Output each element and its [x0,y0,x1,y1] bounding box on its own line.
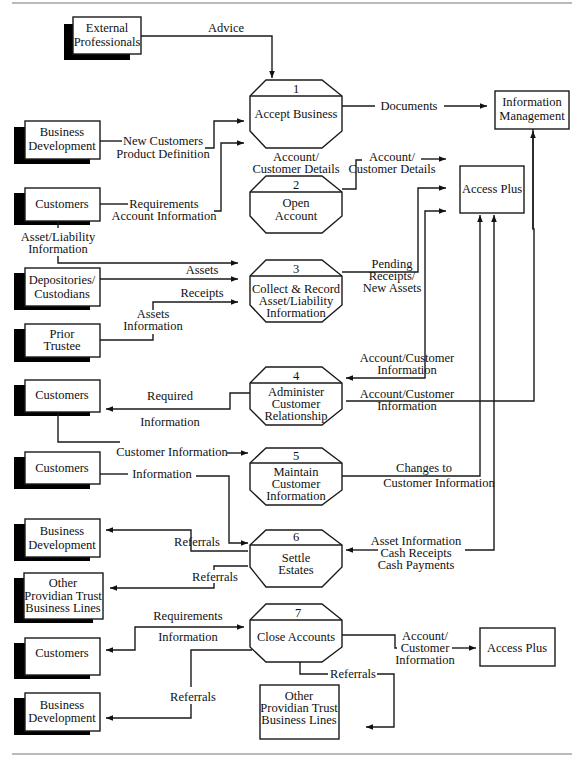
flow-documents: Documents [342,99,487,113]
flow-assets: Assets [100,263,238,279]
process-number: 6 [293,530,299,544]
process-6-settle-estates: 6 Settle Estates [250,530,342,587]
process-number: 5 [293,449,299,463]
flow-label: Information [395,653,455,667]
flow-label: Information [28,242,88,256]
entity-label: Customers [35,461,89,475]
flow-new-customers: New Customers Product Definition [100,121,244,161]
flow-label: Information [377,363,437,377]
entity-label: Business [40,524,85,538]
process-label: Information [266,306,326,320]
flow-label: Customer Details [252,162,339,176]
entity-other-providian-trust-1: Other Providian Trust Business Lines [14,573,103,623]
flow-label: Referrals [330,667,376,681]
entity-label: Business [40,125,85,139]
process-label: Close Accounts [257,630,335,644]
entity-customers-2: Customers [14,380,100,416]
entity-label: Development [28,538,96,552]
process-1-accept-business: 1 Accept Business [250,80,342,148]
entity-label: External [86,21,129,35]
process-number: 3 [293,262,299,276]
flow-account-customer-info-1: Account/Customer Information [346,351,455,378]
flow-label: Information [140,415,200,429]
process-label: Open [282,196,310,210]
flow-label: Required [147,389,194,403]
entity-label: Depositories/ [29,273,96,287]
flow-label: Customer Information [116,445,228,459]
process-label: Information [266,489,326,503]
process-3-collect-record: 3 Collect & Record Asset/Liability Infor… [250,260,342,322]
entity-business-development-3: Business Development [14,693,100,735]
flow-label: New Assets [363,281,422,295]
process-label: Accept Business [255,107,338,121]
process-label: Estates [278,563,314,577]
flow-label: Changes to [396,461,452,475]
entity-label: Customers [35,388,89,402]
process-4-administer-customer-relationship: 4 Administer Customer Relationship [250,367,342,425]
process-number: 1 [293,82,299,96]
entity-customers-4: Customers [14,638,100,679]
entity-label: Development [28,711,96,725]
flow-label: Receipts [180,286,223,300]
entity-depositories-custodians: Depositories/ Custodians [14,268,100,310]
flow-pending-receipts: Pending Receipts/ New Assets [342,188,446,368]
flow-requirements-7: Requirements Information [106,609,244,650]
entity-label: Business [40,698,85,712]
process-label: Relationship [264,409,327,423]
flow-label: Documents [381,99,438,113]
entity-customers-3: Customers [14,452,100,489]
flow-label: New Customers [123,134,203,148]
flow-account-customer-details-2: Account/ Customer Details [342,150,446,189]
flow-label: Information [123,319,183,333]
entity-business-development-2: Business Development [14,519,100,561]
process-label: Account [275,209,318,223]
data-flow-diagram: External Professionals Business Developm… [0,0,583,766]
flow-label: Assets [186,263,219,277]
flow-label: Information [132,467,192,481]
entity-label: Professionals [74,35,141,49]
flow-account-customer-info-7: Account/ Customer Information [342,629,476,667]
flow-referrals-6a: Referrals [106,530,248,551]
process-number: 4 [293,369,300,383]
entity-label: Trustee [43,339,80,353]
entity-label: Customers [35,197,89,211]
store-other-providian-trust-2: Other Providian Trust Business Lines [260,685,339,739]
process-number: 2 [293,178,299,192]
store-label: Access Plus [462,182,522,196]
flow-label: Advice [208,21,245,35]
process-5-maintain-customer-information: 5 Maintain Customer Information [250,448,342,505]
flow-label: Referrals [174,535,220,549]
flow-label: Product Definition [116,147,210,161]
process-2-open-account: 2 Open Account [250,176,342,233]
entity-external-professionals: External Professionals [64,17,141,60]
entity-label: Custodians [34,287,90,301]
flow-account-customer-details-1: Account/ Customer Details [252,150,339,176]
entity-customers-1: Customers [14,188,100,225]
flow-label: Cash Payments [378,558,455,572]
flow-advice: Advice [141,21,272,78]
flow-label: Account Information [111,209,217,223]
flow-required-information: Required Information [106,389,250,429]
flow-information: Information [100,467,248,543]
entity-label: Business Lines [25,601,100,615]
store-label: Management [499,109,565,123]
flow-asset-liability-info: Asset/Liability Information [21,221,238,263]
flow-label: Referrals [192,570,238,584]
store-label: Information [502,95,562,109]
entity-prior-trustee: Prior Trustee [14,324,100,362]
store-access-plus-2: Access Plus [480,628,555,666]
flow-label: Information [377,399,437,413]
entity-business-development-1: Business Development [14,121,100,164]
flow-referrals-6b: Referrals [110,566,248,588]
entity-label: Customers [35,646,89,660]
flow-label: Referrals [170,690,216,704]
process-7-close-accounts: 7 Close Accounts [250,604,342,662]
entity-label: Other [49,576,78,590]
flow-label: Requirements [153,609,223,623]
store-label: Business Lines [261,713,336,727]
entity-label: Development [28,139,96,153]
flow-label: Customer Information [383,476,495,490]
flow-referrals-7a: Referrals [106,650,252,718]
store-label: Access Plus [487,641,547,655]
store-information-management: Information Management [495,91,569,129]
